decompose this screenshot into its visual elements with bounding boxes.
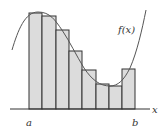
x-axis-label: x	[152, 104, 158, 115]
rectangle-4	[69, 51, 82, 109]
label-a: a	[26, 117, 32, 128]
rectangle-6	[96, 84, 109, 109]
riemann-sum-diagram: f(x) x a b	[0, 0, 165, 135]
rectangle-8	[122, 69, 135, 109]
rectangle-7	[109, 86, 122, 109]
rectangle-5	[82, 70, 96, 109]
rectangle-1	[29, 13, 42, 109]
function-label: f(x)	[117, 24, 135, 35]
rectangle-2	[42, 16, 56, 109]
label-b: b	[132, 117, 138, 128]
rectangle-3	[56, 30, 69, 109]
